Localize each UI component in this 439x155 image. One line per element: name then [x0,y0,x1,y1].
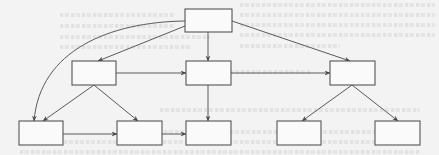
node-bottom-3 [186,121,231,145]
node-bottom-2 [117,121,162,145]
node-mid-center [186,61,231,85]
node-bottom-4 [277,121,321,145]
node-root [185,9,232,32]
nodes [19,9,420,145]
edge-mid-left-to-bottom-1 [43,85,94,121]
node-bottom-1 [19,121,63,145]
edge-root-to-mid-right [232,21,350,61]
flowchart-diagram [0,0,439,155]
edge-mid-left-to-bottom-2 [94,85,138,121]
edge-root-to-mid-left [98,26,185,61]
node-bottom-5 [375,121,420,145]
edge-mid-right-to-bottom-4 [302,85,352,121]
node-mid-right [330,61,375,85]
node-mid-left [72,61,116,85]
edge-mid-right-to-bottom-5 [352,85,398,121]
